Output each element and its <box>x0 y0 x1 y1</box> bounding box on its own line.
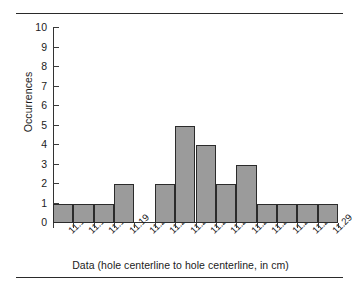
x-axis-tick <box>196 223 197 228</box>
y-axis-tick-label: 5 <box>41 119 47 131</box>
y-axis-tick: 3 <box>53 164 59 165</box>
x-axis-tick <box>155 223 156 228</box>
histogram-bar <box>155 184 175 223</box>
x-axis-tick <box>216 223 217 228</box>
y-axis-tick-label: 9 <box>41 41 47 53</box>
x-axis-tick <box>277 223 278 228</box>
y-axis-tick: 7 <box>53 86 59 87</box>
x-axis-tick <box>236 223 237 228</box>
x-axis-tick <box>73 223 74 228</box>
x-axis-tick <box>94 223 95 228</box>
y-axis-tick-label: 6 <box>41 99 47 111</box>
histogram-bar <box>114 184 134 223</box>
y-axis-tick-label: 8 <box>41 60 47 72</box>
y-axis-tick-label: 0 <box>41 216 47 228</box>
histogram-bar <box>53 204 73 224</box>
histogram-figure: Occurrences 01234567891011.1611.1711.181… <box>0 0 361 286</box>
y-axis-title: Occurrences <box>22 47 34 157</box>
y-axis-tick: 9 <box>53 47 59 48</box>
y-axis-tick-label: 1 <box>41 197 47 209</box>
y-axis-tick: 2 <box>53 183 59 184</box>
x-axis-tick <box>338 223 339 228</box>
y-axis-tick: 5 <box>53 125 59 126</box>
plot-area: 01234567891011.1611.1711.1811.1911.2011.… <box>53 28 338 223</box>
histogram-bar <box>94 204 114 224</box>
x-axis-tick <box>114 223 115 228</box>
y-axis-tick: 8 <box>53 66 59 67</box>
y-axis-tick: 6 <box>53 105 59 106</box>
histogram-bar <box>236 165 256 224</box>
y-axis-tick-label: 7 <box>41 80 47 92</box>
histogram-bar <box>277 204 297 224</box>
y-axis-tick-label: 3 <box>41 158 47 170</box>
histogram-bar <box>196 145 216 223</box>
y-axis-tick: 4 <box>53 144 59 145</box>
x-axis-tick <box>257 223 258 228</box>
histogram-bar <box>297 204 317 224</box>
histogram-bar <box>257 204 277 224</box>
histogram-bar <box>318 204 338 224</box>
histogram-bar <box>73 204 93 224</box>
y-axis-tick-label: 4 <box>41 138 47 150</box>
x-axis-tick <box>175 223 176 228</box>
y-axis-tick-label: 10 <box>35 21 47 33</box>
y-axis-line <box>53 28 54 223</box>
x-axis-tick <box>318 223 319 228</box>
histogram-bar <box>216 184 236 223</box>
x-axis-tick <box>297 223 298 228</box>
histogram-bar <box>175 126 195 224</box>
x-axis-tick <box>53 223 54 228</box>
x-axis-title: Data (hole centerline to hole centerline… <box>0 259 361 271</box>
x-axis-tick <box>134 223 135 228</box>
y-axis-tick-label: 2 <box>41 177 47 189</box>
y-axis-tick: 10 <box>53 27 59 28</box>
